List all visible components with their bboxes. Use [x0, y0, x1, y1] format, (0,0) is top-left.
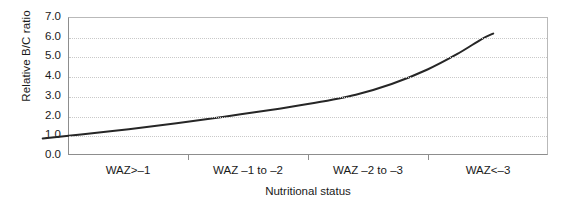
- y-axis-tick-label: 7.0: [27, 10, 61, 22]
- y-axis-tick-label: 3.0: [27, 89, 61, 101]
- x-axis-tick: [188, 155, 189, 160]
- y-axis-tick-labels: 0.01.02.03.04.05.06.07.0: [25, 0, 61, 209]
- x-axis-category-label: WAZ –2 to –3: [308, 164, 428, 176]
- x-axis-title: Nutritional status: [68, 185, 548, 197]
- x-axis-category-label: WAZ>–1: [68, 164, 188, 176]
- chart-figure: Relative B/C ratio 0.01.02.03.04.05.06.0…: [0, 0, 567, 209]
- x-axis-tick: [308, 155, 309, 160]
- gridline: [69, 97, 547, 98]
- y-axis-tick-label: 0.0: [27, 148, 61, 160]
- plot-area: [68, 17, 548, 155]
- gridline: [69, 117, 547, 118]
- gridline: [69, 77, 547, 78]
- gridline: [69, 57, 547, 58]
- x-axis-category-label: WAZ<–3: [428, 164, 548, 176]
- y-axis-tick-label: 2.0: [27, 109, 61, 121]
- y-axis-tick-label: 4.0: [27, 69, 61, 81]
- y-axis-tick-label: 5.0: [27, 49, 61, 61]
- gridline: [69, 136, 547, 137]
- y-axis-tick-label: 6.0: [27, 30, 61, 42]
- gridline: [69, 38, 547, 39]
- x-axis-tick: [428, 155, 429, 160]
- benefit-cost-ratio-curve: [43, 34, 494, 139]
- x-axis-category-label: WAZ –1 to –2: [188, 164, 308, 176]
